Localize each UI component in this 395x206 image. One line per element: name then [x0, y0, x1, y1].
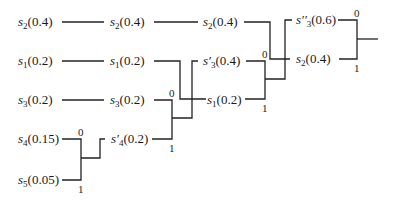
edge-to-s3prime	[172, 61, 198, 118]
merge-s4-s5	[62, 139, 81, 180]
node-c3-2: s1(0.2)	[207, 93, 241, 107]
node-c1-0: s2(0.4)	[18, 15, 52, 29]
node-c4-1: s2(0.4)	[296, 52, 330, 66]
edge-to-s4prime	[81, 139, 105, 158]
merge-s3prime-s1	[245, 61, 265, 99]
merge-final	[338, 20, 357, 59]
edge-to-s3dprime	[265, 20, 292, 79]
node-c1-3: s4(0.15)	[18, 132, 59, 146]
bit-m2-one: 1	[169, 142, 175, 154]
bit-m3-zero: 0	[262, 48, 268, 60]
bit-m2-zero: 0	[169, 87, 175, 99]
bit-m1-one: 1	[78, 183, 84, 195]
node-c2-3: s′4(0.2)	[111, 132, 148, 146]
node-c3-1: s′3(0.4)	[203, 54, 240, 68]
node-c2-0: s2(0.4)	[110, 15, 144, 29]
node-c4-0: s′′3(0.6)	[296, 13, 336, 27]
bit-m4-zero: 0	[354, 7, 360, 19]
node-c2-2: s3(0.2)	[110, 93, 144, 107]
bit-m4-one: 1	[354, 62, 360, 74]
bit-m3-one: 1	[262, 102, 268, 114]
node-c1-1: s1(0.2)	[18, 54, 52, 68]
node-c1-4: s5(0.05)	[18, 173, 59, 187]
huffman-tree-diagram: s2(0.4) s1(0.2) s3(0.2) s4(0.15) s5(0.05…	[0, 0, 395, 206]
node-c2-1: s1(0.2)	[110, 54, 144, 68]
merge-s3-s4prime	[152, 100, 172, 139]
bit-m1-zero: 0	[78, 126, 84, 138]
node-c3-0: s2(0.4)	[203, 15, 237, 29]
edge-c2-s1	[154, 61, 206, 99]
node-c1-2: s3(0.2)	[18, 93, 52, 107]
tree-lines	[0, 0, 395, 206]
